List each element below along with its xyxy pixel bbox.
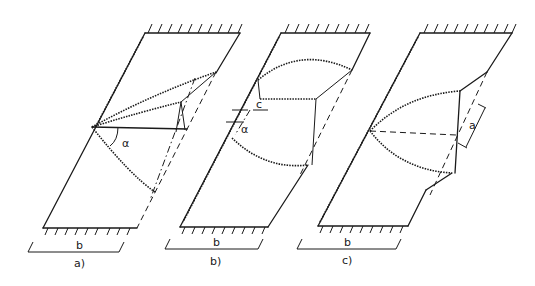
- panel-c-bottom-support-hatch: [320, 226, 403, 233]
- panel-a-crack-link: [181, 72, 216, 102]
- panel-b-upper-arch-crack: [258, 60, 352, 80]
- panel-a-crack-stem-1: [176, 102, 181, 132]
- panel-a-angle-arc: [110, 127, 118, 146]
- panel-a: α b a): [28, 24, 242, 270]
- panel-a-dim-tick-left: [28, 242, 33, 252]
- panel-c-top-support-hatch: [424, 24, 516, 33]
- panel-c-vertical-line: [455, 91, 460, 173]
- panel-a-horizontal-line: [92, 127, 187, 129]
- panel-b-right-edge-lower: [268, 165, 308, 227]
- panel-a-right-dashed-edge: [137, 72, 216, 228]
- panel-c-dim-tick-left: [297, 239, 302, 249]
- panel-a-bottom-support-hatch: [45, 228, 130, 235]
- panel-b-top-support-hatch: [285, 24, 369, 33]
- panel-b-offset-label: c: [256, 98, 262, 111]
- panel-b: c α b b): [165, 24, 370, 268]
- panel-b-crack-link-right: [316, 70, 352, 99]
- panel-a-lower-crack: [92, 102, 181, 127]
- panel-b-dim-tick-left: [165, 239, 170, 249]
- panel-a-top-support-hatch: [148, 24, 242, 33]
- panel-b-vertical-crack: [312, 99, 316, 165]
- panel-a-right-edge-upper: [216, 33, 240, 73]
- panel-b-bottom-support-hatch: [182, 227, 265, 234]
- panel-a-dashdot-line: [150, 78, 195, 200]
- panel-b-width-label: b: [213, 236, 220, 249]
- panel-c-right-dashed-edge: [430, 72, 487, 195]
- panel-c-upper-crack: [370, 91, 460, 131]
- panel-c-lower-arch-crack: [370, 131, 452, 173]
- panel-b-crack-link-left: [258, 80, 260, 99]
- failure-mechanism-diagram: α b a): [0, 0, 535, 286]
- panel-b-right-edge-upper: [352, 33, 370, 70]
- panel-a-width-label: b: [76, 239, 83, 252]
- panel-c-a-tick-bottom: [458, 143, 467, 148]
- panel-a-dim-tick-right: [119, 242, 124, 252]
- panel-c-horizontal-dashed: [370, 131, 456, 135]
- panel-b-dim-tick-right: [258, 239, 263, 249]
- panel-c-caption: c): [342, 254, 352, 267]
- panel-c-right-edge-lower: [408, 190, 426, 226]
- panel-a-angle-label: α: [122, 137, 129, 150]
- panel-c: a b c): [297, 24, 516, 267]
- panel-c-a-label: a: [469, 119, 476, 132]
- panel-b-right-dashed-edge: [300, 70, 352, 175]
- panel-c-a-tick-top: [478, 104, 486, 108]
- panel-c-width-label: b: [344, 236, 351, 249]
- panel-b-lower-arch-crack: [232, 138, 308, 166]
- panel-a-caption: a): [74, 257, 85, 270]
- panel-c-right-edge-upper: [487, 33, 512, 72]
- panel-b-caption: b): [210, 255, 221, 268]
- panel-c-dim-tick-right: [396, 239, 401, 249]
- panel-b-angle-label: α: [241, 123, 248, 136]
